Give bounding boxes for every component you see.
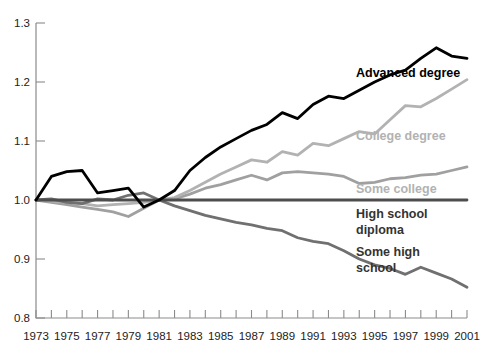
- series-labels-group: Advanced degreeCollege degreeSome colleg…: [356, 66, 460, 275]
- series-label: Advanced degree: [356, 66, 460, 80]
- x-axis-tick-label: 1981: [146, 330, 172, 342]
- x-axis-tick-label: 1999: [423, 330, 449, 342]
- series-label: High school: [356, 207, 428, 221]
- x-axis-tick-label: 1993: [331, 330, 357, 342]
- x-axis-tick-label: 1985: [208, 330, 234, 342]
- chart-page: 0.80.91.01.11.21.3 197319751977197919811…: [0, 0, 484, 354]
- x-axis-tick-label: 1987: [239, 330, 265, 342]
- x-axis-tick-label: 1983: [177, 330, 203, 342]
- x-axis-tick-label: 1989: [269, 330, 295, 342]
- y-axis-tick-label: 1.0: [14, 194, 30, 206]
- y-axis-labels-group: 0.80.91.01.11.21.3: [14, 17, 30, 324]
- x-axis-labels-group: 1973197519771979198119831985198719891991…: [23, 330, 480, 342]
- series-label: diploma: [356, 223, 405, 237]
- y-axis-tick-label: 1.2: [14, 76, 30, 88]
- series-label: Some high: [356, 245, 420, 259]
- series-label: Some college: [356, 182, 437, 196]
- x-axis-tick-label: 1991: [300, 330, 326, 342]
- line-chart: 0.80.91.01.11.21.3 197319751977197919811…: [0, 0, 484, 354]
- x-axis-tick-label: 1975: [54, 330, 80, 342]
- x-axis-tick-label: 1979: [116, 330, 142, 342]
- x-axis-tick-label: 1997: [393, 330, 419, 342]
- x-axis-tick-label: 1977: [85, 330, 111, 342]
- y-axis-tick-label: 0.9: [14, 253, 30, 265]
- x-axis-tick-label: 1995: [362, 330, 388, 342]
- series-label: school: [356, 261, 396, 275]
- x-axis-tick-label: 2001: [454, 330, 480, 342]
- series-label: College degree: [356, 129, 446, 143]
- y-axis-tick-label: 1.1: [14, 135, 30, 147]
- x-axis-tick-label: 1973: [23, 330, 49, 342]
- y-axis-tick-label: 0.8: [14, 312, 30, 324]
- y-axis-tick-label: 1.3: [14, 17, 30, 29]
